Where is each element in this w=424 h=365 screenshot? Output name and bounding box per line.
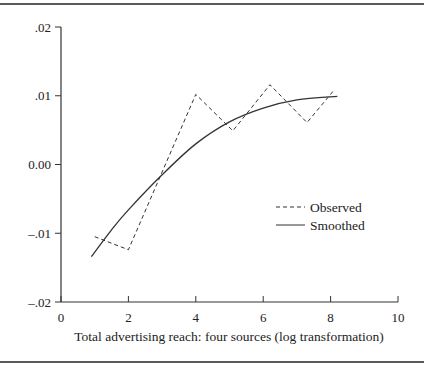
y-tick-label: .02 bbox=[35, 20, 51, 35]
x-tick-label: 2 bbox=[125, 310, 132, 325]
y-tick-label: –.02 bbox=[27, 295, 51, 310]
line-chart: .02.010.00–.01–.02 0246810 Total adverti… bbox=[0, 0, 424, 365]
legend-smoothed-label: Smoothed bbox=[310, 218, 365, 233]
y-tick-label: 0.00 bbox=[28, 157, 51, 172]
x-ticks: 0246810 bbox=[58, 296, 405, 325]
legend-observed-label: Observed bbox=[310, 200, 362, 215]
x-tick-label: 6 bbox=[260, 310, 267, 325]
x-axis-title: Total advertising reach: four sources (l… bbox=[74, 329, 383, 344]
x-tick-label: 0 bbox=[58, 310, 65, 325]
x-tick-label: 4 bbox=[193, 310, 200, 325]
x-tick-label: 10 bbox=[392, 310, 405, 325]
series-smoothed-line bbox=[91, 96, 337, 256]
x-tick-label: 8 bbox=[327, 310, 334, 325]
legend: Observed Smoothed bbox=[276, 200, 365, 233]
series-layer bbox=[91, 85, 337, 257]
y-tick-label: –.01 bbox=[27, 226, 51, 241]
y-tick-label: .01 bbox=[35, 88, 51, 103]
y-ticks: .02.010.00–.01–.02 bbox=[27, 20, 61, 310]
